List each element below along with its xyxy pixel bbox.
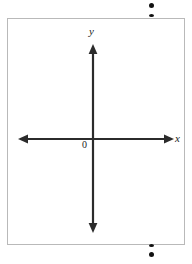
y-axis-up-arrowhead: [89, 44, 98, 54]
page-marker-dot-bottom-inner: [149, 244, 154, 247]
x-axis-label: x: [175, 133, 180, 144]
x-axis-right-arrowhead: [164, 135, 174, 144]
x-axis-left-arrowhead: [18, 135, 28, 144]
coordinate-plane: [7, 18, 185, 245]
page-marker-dot-bottom-outer: [149, 252, 154, 257]
y-axis-label: y: [89, 26, 94, 37]
page-marker-dot-top-inner: [149, 14, 154, 17]
y-axis-down-arrowhead: [89, 223, 98, 233]
origin-label: 0: [82, 140, 87, 150]
axes-drawing: [7, 18, 185, 245]
figure-root: y x 0: [0, 0, 192, 264]
page-marker-dot-top-outer: [149, 3, 154, 8]
